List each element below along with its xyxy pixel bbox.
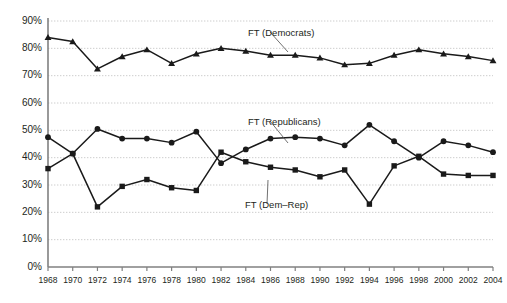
data-point-marker (169, 140, 175, 146)
data-point-marker (367, 201, 372, 206)
y-axis-tick-label: 80% (2, 42, 42, 53)
data-point-marker (268, 136, 274, 142)
x-axis-tick-label: 2004 (477, 275, 507, 285)
data-point-marker (465, 142, 471, 148)
series-annotation-label: FT (Democrats) (248, 27, 314, 38)
data-point-marker (441, 171, 446, 176)
data-point-marker (143, 46, 150, 52)
series-annotation-label: FT (Dem–Rep) (245, 199, 308, 210)
data-point-marker (416, 154, 421, 159)
data-point-marker (317, 174, 322, 179)
data-point-marker (119, 136, 125, 142)
data-point-marker (194, 188, 199, 193)
data-point-marker (243, 147, 249, 153)
data-point-marker (317, 136, 323, 142)
y-axis-tick-label: 40% (2, 151, 42, 162)
data-point-marker (218, 150, 223, 155)
data-point-marker (490, 173, 495, 178)
data-point-marker (342, 167, 347, 172)
data-point-marker (268, 165, 273, 170)
data-point-marker (391, 163, 396, 168)
y-axis-tick-label: 60% (2, 97, 42, 108)
y-axis-tick-label: 90% (2, 15, 42, 26)
data-point-marker (466, 173, 471, 178)
data-point-marker (342, 142, 348, 148)
data-point-marker (490, 149, 496, 155)
data-point-marker (441, 138, 447, 144)
series-annotation-label: FT (Republicans) (248, 116, 321, 127)
data-point-marker (95, 204, 100, 209)
data-point-marker (293, 167, 298, 172)
data-point-marker (391, 138, 397, 144)
y-axis-tick-label: 70% (2, 69, 42, 80)
data-point-marker (366, 122, 372, 128)
y-axis-tick-label: 0% (2, 261, 42, 272)
y-axis-tick-label: 50% (2, 124, 42, 135)
data-point-marker (243, 159, 248, 164)
data-point-marker (193, 129, 199, 135)
y-axis-tick-label: 30% (2, 179, 42, 190)
data-point-marker (45, 166, 50, 171)
data-point-marker (292, 134, 298, 140)
y-axis-tick-label: 10% (2, 233, 42, 244)
data-point-marker (95, 126, 101, 132)
data-point-marker (218, 160, 224, 166)
data-point-marker (169, 185, 174, 190)
y-axis-tick-label: 20% (2, 206, 42, 217)
data-point-marker (144, 177, 149, 182)
data-point-marker (119, 184, 124, 189)
data-point-marker (70, 151, 75, 156)
data-point-marker (144, 136, 150, 142)
data-point-marker (45, 134, 51, 140)
